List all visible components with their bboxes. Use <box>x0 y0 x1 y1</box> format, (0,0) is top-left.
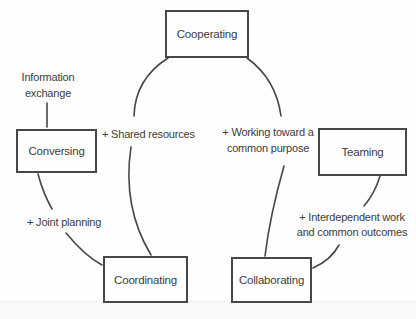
node-coordinating-label: Coordinating <box>114 274 177 286</box>
edge-cooperating-to-working-purpose <box>247 58 281 116</box>
node-cooperating-label: Cooperating <box>177 28 237 40</box>
edge-cooperating-to-shared-resources <box>134 58 168 116</box>
label-shared-resources: + Shared resources <box>102 128 195 141</box>
label-information-exchange-line1: Information <box>6 69 90 85</box>
edge-teaming-to-interdependent <box>364 176 380 206</box>
edge-joint-planning-to-coordinating <box>66 233 102 265</box>
label-information-exchange: Information exchange <box>6 69 90 101</box>
page-bottom-tint <box>0 303 416 319</box>
edge-shared-resources-to-coordinating <box>129 147 151 255</box>
node-teaming-label: Teaming <box>341 146 383 158</box>
label-working-toward-common-purpose: + Working toward a common purpose <box>220 124 316 156</box>
collaboration-cycle-diagram: Cooperating Conversing Teaming Coordinat… <box>0 0 416 319</box>
edge-conversing-to-joint-planning <box>38 174 52 209</box>
label-joint-planning: + Joint planning <box>27 215 101 229</box>
edge-interdependent-to-collaborating <box>313 245 339 268</box>
label-interdependent-work: + Interdependent work and common outcome… <box>296 210 408 240</box>
node-cooperating: Cooperating <box>165 10 249 58</box>
edge-working-purpose-to-collaborating <box>265 166 284 256</box>
node-collaborating: Collaborating <box>231 257 312 303</box>
node-coordinating: Coordinating <box>103 256 188 303</box>
node-conversing: Conversing <box>16 129 97 173</box>
label-working-toward-line2: common purpose <box>220 140 316 156</box>
label-interdependent-line1: + Interdependent work <box>296 210 408 225</box>
label-information-exchange-line2: exchange <box>6 85 90 101</box>
node-teaming: Teaming <box>318 128 407 176</box>
node-collaborating-label: Collaborating <box>239 274 304 286</box>
label-working-toward-line1: + Working toward a <box>220 124 316 140</box>
label-interdependent-line2: and common outcomes <box>296 225 408 240</box>
node-conversing-label: Conversing <box>28 145 84 157</box>
